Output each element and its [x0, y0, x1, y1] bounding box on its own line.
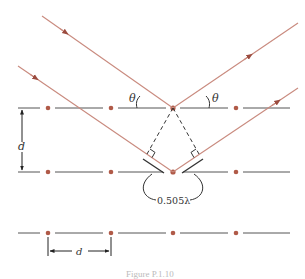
theta-label-incident: θ [129, 92, 136, 105]
theta-arc-left [136, 96, 140, 108]
path-difference-label: 0.505λ [157, 195, 190, 206]
atom [109, 170, 114, 175]
reflected-ray-lower-arrow [272, 101, 278, 105]
theta-label-reflected: θ [212, 92, 219, 105]
incident-ray-upper-arrow [60, 29, 66, 33]
atom-spacing-label: d [76, 246, 82, 257]
bragg-diffraction-diagram: θ θ d d 0.505λ Figure P.1.10 [0, 0, 305, 279]
atom [109, 231, 114, 236]
x-ray-beams [18, 16, 298, 172]
path-segment-mark-right [182, 159, 203, 173]
path-difference-construction [143, 108, 203, 200]
theta-arc-right [206, 96, 210, 108]
atom [46, 231, 51, 236]
atom [109, 106, 114, 111]
perpendicular-right [173, 108, 199, 154]
atom [234, 231, 239, 236]
reflected-ray-upper [173, 23, 298, 108]
atom [46, 170, 51, 175]
atoms [46, 105, 239, 235]
atom [234, 106, 239, 111]
right-angle-mark-right [191, 149, 196, 158]
incident-ray-lower-arrow [30, 74, 36, 78]
atom [46, 106, 51, 111]
path-segment-mark-left [143, 159, 164, 173]
perpendicular-left [147, 108, 173, 154]
crystal-planes [18, 108, 290, 233]
figure-caption: Figure P.1.10 [126, 269, 174, 279]
atom [171, 231, 176, 236]
reflected-ray-lower [173, 88, 298, 172]
incident-ray-lower [18, 66, 173, 172]
atom [234, 170, 239, 175]
plane-spacing-label: d [18, 140, 25, 153]
reflected-ray-upper-arrow [244, 56, 250, 60]
